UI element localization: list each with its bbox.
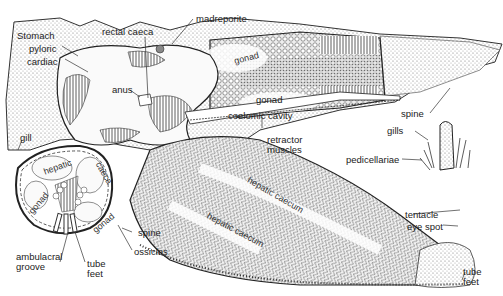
label-eye-spot: eye spot <box>407 222 443 232</box>
madreporite-plate <box>156 45 164 53</box>
label-gills: gills <box>387 126 403 136</box>
spine-detail <box>420 122 470 171</box>
label-pedicellariae: pedicellariae <box>346 155 399 165</box>
label-cs-ossicles: ossicles <box>134 247 168 257</box>
label-gonad-middle: gonad <box>256 95 282 105</box>
label-anus: anus <box>112 85 133 95</box>
label-cs-spine: spine <box>138 228 161 238</box>
label-stomach: Stomach <box>17 31 55 41</box>
label-madreporite: madreporite <box>196 14 247 24</box>
label-tube-feet-arm-line2: feet <box>463 277 479 287</box>
label-ambulacral-groove-line2: groove <box>16 262 45 272</box>
starfish-illustration <box>0 0 503 296</box>
label-coelomic-cavity: coelomic cavity <box>228 111 292 121</box>
label-rectal-caeca: rectal caeca <box>102 27 153 37</box>
label-spine-detail: spine <box>401 109 424 119</box>
label-cardiac: cardiac <box>27 57 58 67</box>
label-tentacle: tentacle <box>405 210 438 220</box>
label-cs-tube-feet-line2: feet <box>87 269 103 279</box>
starfish-anatomy-diagram: Stomach pyloric cardiac rectal caeca mad… <box>0 0 503 296</box>
label-retractor-muscles-line2: muscles <box>267 145 302 155</box>
label-pyloric: pyloric <box>29 44 56 54</box>
label-gill: gill <box>20 133 32 143</box>
cropped-caption-fragment <box>300 288 500 296</box>
